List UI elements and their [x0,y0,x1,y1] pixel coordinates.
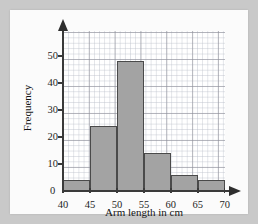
histogram-bar [144,153,171,191]
x-axis-tick [197,188,198,193]
chart-paper-panel: 0 Arm length in cm Frequency 10203040504… [10,10,248,214]
histogram-bar [117,61,144,191]
histogram-bar [90,126,117,191]
y-axis-tick-label: 50 [34,51,58,61]
histogram-bar [63,180,90,191]
y-axis-arrow-icon [58,19,68,31]
x-axis-tick-label: 40 [58,199,69,210]
x-axis-tick [170,188,171,193]
y-axis-tick [58,136,63,137]
y-axis-tick [58,55,63,56]
x-axis-tick [89,188,90,193]
histogram-bar [171,175,198,191]
y-axis-line [62,30,64,192]
x-axis-tick-label: 45 [85,199,96,210]
y-axis-tick [58,82,63,83]
y-axis-tick-label: 30 [34,105,58,115]
x-axis-tick [62,188,63,193]
y-axis-tick-label: 10 [34,159,58,169]
x-axis-tick [224,188,225,193]
y-axis-tick-label: 20 [34,132,58,142]
x-axis-tick-label: 65 [193,199,204,210]
y-axis-tick [58,163,63,164]
x-axis-tick-label: 70 [220,199,231,210]
y-axis-tick [58,109,63,110]
x-axis-line [62,190,230,192]
x-axis-tick-label: 55 [139,199,150,210]
chart-page: 0 Arm length in cm Frequency 10203040504… [0,0,258,224]
x-axis-tick-label: 50 [112,199,123,210]
x-axis-tick-label: 60 [166,199,177,210]
histogram-bar [198,180,225,191]
x-axis-tick [143,188,144,193]
x-axis-tick [116,188,117,193]
y-axis-tick-label: 40 [34,78,58,88]
